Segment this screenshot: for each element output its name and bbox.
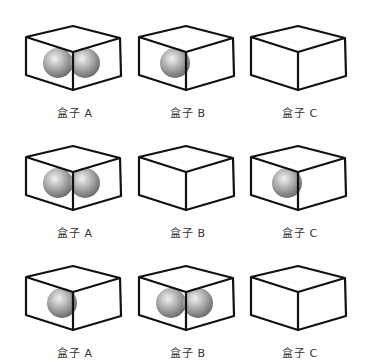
box-edge — [139, 26, 233, 52]
box-cell: 盒子 C — [245, 260, 365, 363]
box-cell: 盒子 A — [20, 20, 140, 140]
box-edge — [251, 266, 345, 292]
box-cell: 盒子 B — [133, 20, 253, 140]
box-cell: 盒子 A — [20, 140, 140, 260]
box-edge — [26, 26, 120, 52]
box-cell: 盒子 C — [245, 140, 365, 260]
box-illustration — [245, 140, 355, 220]
box-edge — [139, 266, 233, 292]
box-label: 盒子 C — [245, 104, 355, 120]
box-illustration — [133, 140, 243, 220]
box-label: 盒子 A — [20, 224, 130, 240]
box-illustration — [133, 20, 243, 100]
box-edge — [251, 146, 345, 172]
box-edge — [139, 146, 233, 172]
box-label: 盒子 B — [133, 224, 243, 240]
box-label: 盒子 A — [20, 104, 130, 120]
box-edge — [251, 26, 345, 52]
box-label: 盒子 A — [20, 344, 130, 360]
box-cell: 盒子 B — [133, 140, 253, 260]
box-illustration — [133, 260, 243, 340]
box-cell: 盒子 A — [20, 260, 140, 363]
ball — [156, 288, 186, 318]
box-illustration — [245, 20, 355, 100]
box-label: 盒子 C — [245, 344, 355, 360]
ball — [43, 48, 73, 78]
box-label: 盒子 B — [133, 344, 243, 360]
box-edge — [26, 146, 120, 172]
box-label: 盒子 C — [245, 224, 355, 240]
ball — [43, 168, 73, 198]
box-illustration — [245, 260, 355, 340]
box-cell: 盒子 C — [245, 20, 365, 140]
box-edge — [26, 266, 120, 292]
box-cell: 盒子 B — [133, 260, 253, 363]
box-illustration — [20, 20, 130, 100]
box-illustration — [20, 140, 130, 220]
box-label: 盒子 B — [133, 104, 243, 120]
box-illustration — [20, 260, 130, 340]
